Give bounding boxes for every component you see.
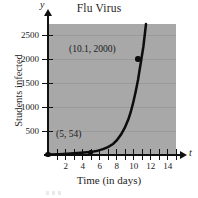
- annotation-label-high: (10.1, 2000): [69, 44, 116, 54]
- data-point-10.1-2000: [135, 56, 140, 61]
- scan-artifact: [58, 191, 61, 195]
- y-axis-title: Students infected: [13, 26, 24, 156]
- exponential-growth-curve: [0, 0, 198, 198]
- data-point-5-54: [88, 150, 93, 155]
- flu-virus-chart-figure: Flu Virus y t 2500 2000 1500 1000 500 2 …: [0, 0, 198, 198]
- scan-artifact: [46, 191, 49, 195]
- data-point-origin: [45, 152, 50, 157]
- scan-artifact: [52, 191, 55, 195]
- annotation-label-low: (5, 54): [56, 129, 81, 139]
- x-axis-title: Time (in days): [34, 174, 184, 186]
